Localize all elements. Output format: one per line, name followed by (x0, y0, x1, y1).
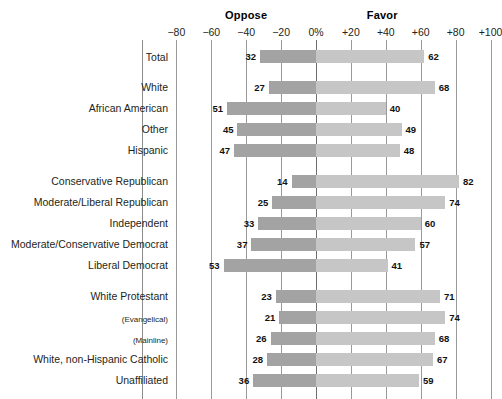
value-label-favor: 60 (425, 217, 453, 230)
bar-oppose (272, 196, 316, 209)
bar-favor (316, 353, 433, 366)
row-label: (Evangelical) (122, 314, 168, 325)
gridline-100 (491, 40, 492, 399)
row-label: Moderate/Conservative Democrat (11, 239, 168, 250)
bar-favor (316, 81, 435, 94)
value-label-oppose: 21 (247, 311, 275, 324)
row-label: White, non-Hispanic Catholic (33, 354, 168, 365)
bar-favor (316, 50, 424, 63)
value-label-oppose: 37 (219, 238, 247, 251)
value-label-oppose: 25 (240, 196, 268, 209)
value-label-oppose: 28 (235, 353, 263, 366)
legend-label-favor: Favor (354, 9, 410, 21)
row-label: Independent (110, 218, 168, 229)
axis-tick-0: 0% (308, 26, 323, 38)
value-label-oppose: 51 (195, 102, 223, 115)
value-label-favor: 82 (463, 175, 491, 188)
value-label-oppose: 14 (260, 175, 288, 188)
bar-favor (316, 374, 419, 387)
row-label: Other (142, 124, 168, 135)
value-label-favor: 57 (419, 238, 447, 251)
value-label-favor: 40 (390, 102, 418, 115)
row-label: White (141, 82, 168, 93)
bar-oppose (253, 374, 316, 387)
bar-oppose (258, 217, 316, 230)
bar-oppose (269, 81, 316, 94)
gridline-80 (456, 40, 457, 399)
bar-oppose (251, 238, 316, 251)
row-label: Unaffiliated (116, 375, 168, 386)
bar-oppose (276, 290, 316, 303)
bar-oppose (224, 259, 316, 272)
value-label-oppose: 47 (202, 144, 230, 157)
value-label-oppose: 32 (228, 50, 256, 63)
bar-oppose (260, 50, 316, 63)
value-label-oppose: 53 (192, 259, 220, 272)
value-label-oppose: 33 (226, 217, 254, 230)
value-label-oppose: 36 (221, 374, 249, 387)
value-label-favor: 49 (406, 123, 434, 136)
bar-oppose (234, 144, 316, 157)
row-label: Hispanic (128, 145, 168, 156)
value-label-oppose: 26 (239, 332, 267, 345)
row-label: Total (146, 52, 168, 63)
bar-oppose (237, 123, 316, 136)
axis-tick-100: +100 (479, 26, 502, 38)
value-label-oppose: 27 (237, 81, 265, 94)
bar-favor (316, 196, 445, 209)
bar-oppose (271, 332, 316, 345)
bar-favor (316, 311, 445, 324)
value-label-favor: 74 (449, 311, 477, 324)
bar-favor (316, 102, 386, 115)
bar-favor (316, 290, 440, 303)
axis-tick-neg20: −20 (272, 26, 290, 38)
axis-tick-80: +80 (447, 26, 465, 38)
bar-oppose (227, 102, 316, 115)
row-label: White Protestant (90, 291, 168, 302)
value-label-favor: 59 (423, 374, 451, 387)
value-label-favor: 41 (392, 259, 420, 272)
gridline--80 (176, 40, 177, 399)
axis-tick-neg60: −60 (202, 26, 220, 38)
bar-favor (316, 144, 400, 157)
axis-tick-40: +40 (377, 26, 395, 38)
value-label-favor: 71 (444, 290, 472, 303)
legend-favor-text: Favor (367, 9, 398, 21)
bar-favor (316, 238, 415, 251)
gridline-60 (421, 40, 422, 399)
value-label-oppose: 23 (244, 290, 272, 303)
bar-favor (316, 332, 435, 345)
value-label-favor: 48 (404, 144, 432, 157)
axis-tick-20: +20 (342, 26, 360, 38)
value-label-favor: 68 (439, 332, 467, 345)
axis-tick-60: +60 (412, 26, 430, 38)
value-label-favor: 68 (439, 81, 467, 94)
value-label-favor: 74 (449, 196, 477, 209)
row-label: (Mainline) (133, 335, 168, 346)
value-label-favor: 67 (437, 353, 465, 366)
row-label: Moderate/Liberal Republican (34, 197, 168, 208)
bar-oppose (292, 175, 316, 188)
legend-oppose-text: Oppose (225, 9, 267, 21)
row-label: African American (89, 103, 168, 114)
bar-favor (316, 123, 402, 136)
gridline--60 (211, 40, 212, 399)
axis-tick-neg40: −40 (237, 26, 255, 38)
bar-favor (316, 217, 421, 230)
bar-oppose (279, 311, 316, 324)
value-label-oppose: 45 (205, 123, 233, 136)
legend-label-oppose: Oppose (218, 9, 274, 21)
row-label: Liberal Democrat (88, 260, 168, 271)
value-label-favor: 62 (428, 50, 456, 63)
axis-tick-neg80: −80 (167, 26, 185, 38)
bar-favor (316, 175, 459, 188)
bar-favor (316, 259, 388, 272)
row-label: Conservative Republican (51, 176, 168, 187)
bar-oppose (267, 353, 316, 366)
